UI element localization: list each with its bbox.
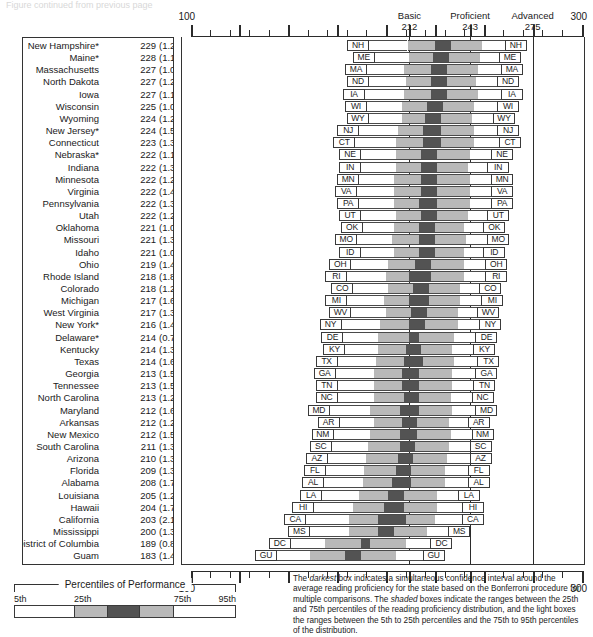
state-name: Ohio bbox=[79, 259, 99, 271]
state-mean-score: 204 bbox=[134, 502, 156, 514]
state-mean-score: 210 bbox=[134, 453, 156, 465]
boxplot-row: UTUT bbox=[182, 210, 584, 221]
state-abbr-right: WI bbox=[497, 101, 519, 112]
state-name: New Jersey* bbox=[46, 125, 99, 137]
boxplot-row: CACA bbox=[182, 514, 584, 525]
state-name: Wyoming bbox=[59, 113, 99, 125]
segment-p25-cilow bbox=[402, 113, 425, 124]
state-abbr-left: NY bbox=[320, 319, 342, 330]
boxplot-row: MIMI bbox=[182, 295, 584, 306]
boxplot-row: NHNH bbox=[182, 40, 584, 51]
state-name-row: Wisconsin225(1.0) bbox=[23, 101, 173, 113]
segment-cihigh-p75 bbox=[437, 198, 470, 209]
segment-confidence-interval bbox=[388, 490, 404, 501]
state-name-row: Oklahoma221(1.0) bbox=[23, 222, 173, 234]
state-name-row: Georgia213(1.5) bbox=[23, 368, 173, 380]
state-standard-error: (1.2) bbox=[159, 174, 174, 186]
segment-p25-cilow bbox=[406, 76, 431, 87]
state-name-row: Florida209(1.3) bbox=[23, 465, 173, 477]
segment-cihigh-p75 bbox=[404, 490, 437, 501]
segment-confidence-interval bbox=[421, 210, 437, 221]
state-mean-score: 227 bbox=[134, 89, 156, 101]
state-standard-error: (1.6) bbox=[159, 405, 174, 417]
state-name: Florida bbox=[70, 465, 99, 477]
state-mean-score: 222 bbox=[134, 210, 156, 222]
state-standard-error: (1.5) bbox=[159, 125, 174, 137]
state-standard-error: (1.2) bbox=[159, 76, 174, 88]
segment-cihigh-p75 bbox=[437, 174, 470, 185]
state-abbr-right: MS bbox=[448, 526, 470, 537]
state-abbr-right: DC bbox=[430, 538, 452, 549]
boxplot-row: CTCT bbox=[182, 137, 584, 148]
state-standard-error: (1.1) bbox=[159, 89, 174, 101]
state-standard-error: (1.3) bbox=[159, 465, 174, 477]
segment-confidence-interval bbox=[413, 283, 429, 294]
boxplot-row: VAVA bbox=[182, 186, 584, 197]
segment-p25-cilow bbox=[398, 125, 423, 136]
state-mean-score: 218 bbox=[134, 271, 156, 283]
legend-segment-dark bbox=[107, 606, 139, 617]
segment-cihigh-p75 bbox=[437, 162, 468, 173]
state-standard-error: (1.5) bbox=[159, 368, 174, 380]
boxplot-row: HIHI bbox=[182, 502, 584, 513]
segment-confidence-interval bbox=[384, 502, 404, 513]
segment-p25-cilow bbox=[388, 259, 415, 270]
segment-cihigh-p75 bbox=[429, 283, 460, 294]
axis-tick bbox=[327, 30, 328, 36]
state-name-row: Idaho221(1.0) bbox=[23, 247, 173, 259]
segment-cihigh-p75 bbox=[431, 271, 464, 282]
state-standard-error: (1.1) bbox=[159, 149, 174, 161]
axis-tick-benchmark bbox=[470, 25, 472, 36]
state-mean-score: 221 bbox=[134, 234, 156, 246]
legend-tick-5th: 5th bbox=[14, 593, 27, 605]
state-abbr-right: LA bbox=[458, 490, 480, 501]
state-abbr-left: AL bbox=[302, 477, 324, 488]
state-abbr-left: MS bbox=[288, 526, 310, 537]
segment-confidence-interval bbox=[415, 259, 431, 270]
segment-confidence-interval bbox=[411, 307, 427, 318]
state-abbr-right: TX bbox=[477, 356, 499, 367]
state-standard-error: (1.7) bbox=[159, 502, 174, 514]
segment-confidence-interval bbox=[402, 417, 418, 428]
state-name: Georgia bbox=[65, 368, 99, 380]
segment-cihigh-p75 bbox=[419, 332, 454, 343]
axis-tick bbox=[269, 572, 270, 578]
legend-title: Percentiles of Performance bbox=[59, 578, 192, 591]
axis-tick bbox=[464, 30, 465, 36]
boxplot-row: MAMA bbox=[182, 64, 584, 75]
axis-tick bbox=[386, 25, 388, 36]
state-abbr-left: NC bbox=[316, 392, 338, 403]
state-name: Rhode Island bbox=[43, 271, 99, 283]
state-abbr-right: CO bbox=[479, 283, 501, 294]
segment-p25-cilow bbox=[384, 295, 409, 306]
state-abbr-right: HI bbox=[462, 502, 484, 513]
state-standard-error: (1.4) bbox=[159, 186, 174, 198]
state-mean-score: 213 bbox=[134, 368, 156, 380]
boxplot-row: NJNJ bbox=[182, 125, 584, 136]
state-abbr-right: KY bbox=[473, 344, 495, 355]
state-name-row: Colorado218(1.2) bbox=[23, 283, 173, 295]
segment-cihigh-p75 bbox=[421, 344, 452, 355]
state-standard-error: (1.3) bbox=[159, 198, 174, 210]
boxplot-row: FLFL bbox=[182, 465, 584, 476]
boxplot-row: SCSC bbox=[182, 441, 584, 452]
segment-confidence-interval bbox=[392, 477, 412, 488]
axis-tick bbox=[366, 30, 367, 36]
state-name: New Mexico bbox=[47, 429, 99, 441]
state-standard-error: (1.3) bbox=[159, 344, 174, 356]
segment-cihigh-p75 bbox=[423, 356, 454, 367]
state-name-row: Iowa227(1.1) bbox=[23, 89, 173, 101]
boxplot-row: NMNM bbox=[182, 429, 584, 440]
boxplot-row: TXTX bbox=[182, 356, 584, 367]
state-abbr-right: MI bbox=[481, 295, 503, 306]
state-mean-score: 183 bbox=[134, 550, 156, 562]
state-abbr-right: TN bbox=[473, 380, 495, 391]
state-standard-error: (1.6) bbox=[159, 295, 174, 307]
boxplot-row: RIRI bbox=[182, 271, 584, 282]
segment-p25-cilow bbox=[376, 356, 403, 367]
state-mean-score: 223 bbox=[134, 137, 156, 149]
segment-confidence-interval bbox=[404, 392, 420, 403]
state-name: Connecticut bbox=[49, 137, 99, 149]
segment-p25-cilow bbox=[386, 271, 409, 282]
state-standard-error: (1.2) bbox=[159, 392, 174, 404]
